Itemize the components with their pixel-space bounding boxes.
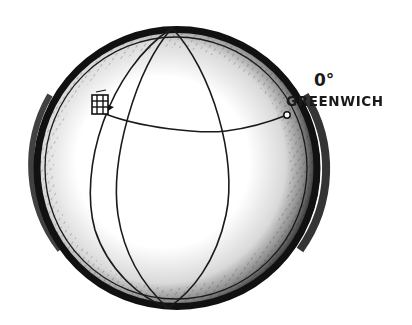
place-label: GREENWICH xyxy=(286,95,384,109)
circle-marker-icon xyxy=(284,112,290,118)
longitude-label: 0° xyxy=(314,72,334,89)
globe-sphere xyxy=(30,20,330,320)
globe-illustration xyxy=(0,0,412,325)
